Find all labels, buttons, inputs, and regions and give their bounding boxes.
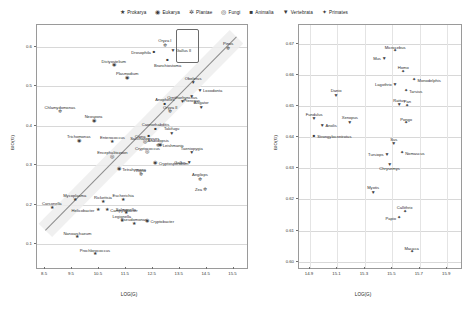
- data-point-takifugu[interactable]: ▼: [169, 130, 174, 135]
- y-tickmark: [296, 230, 298, 231]
- data-point-zea[interactable]: ✲: [203, 186, 207, 191]
- legend-item-fungi[interactable]: ◎Fungi: [221, 9, 240, 15]
- y-tickmark: [34, 164, 36, 165]
- data-point-dictyostelium[interactable]: ◉: [112, 63, 116, 68]
- legend-item-eukarya[interactable]: ◉Eukarya: [155, 9, 180, 15]
- data-point-label: Taeniopygia: [181, 145, 203, 150]
- y-tickmark: [34, 125, 36, 126]
- animalia-marker-icon: ■: [250, 9, 254, 15]
- data-point-lagothrix[interactable]: ▼: [393, 82, 398, 87]
- data-point-carsonella[interactable]: ★: [50, 205, 54, 210]
- data-point-tarsius[interactable]: ✦: [404, 89, 408, 94]
- gridline-vertical: [365, 25, 366, 268]
- data-point-campylobacter[interactable]: ★: [105, 208, 109, 213]
- left-y-axis-title: BIO(G): [10, 123, 15, 163]
- data-point-escherichia[interactable]: ★: [121, 197, 125, 202]
- data-point-label: Chlamydomonas: [45, 104, 76, 109]
- x-tickmark: [446, 267, 447, 269]
- y-tick-label: 0.66: [258, 71, 294, 76]
- legend-label-eukarya: Eukarya: [162, 10, 180, 15]
- legend-item-prokarya[interactable]: ★Prokarya: [120, 9, 146, 15]
- data-point-pan[interactable]: ✦: [405, 104, 409, 109]
- data-point-label: Tursiops: [368, 152, 384, 157]
- data-point-xenopus[interactable]: ▼: [347, 119, 352, 124]
- legend-item-primates[interactable]: ✦Primates: [322, 9, 348, 15]
- legend-item-vertebrata[interactable]: ▼Vertebrata: [283, 9, 313, 15]
- data-point-prochlorococcus[interactable]: ★: [93, 252, 97, 257]
- data-point-gallus-ii[interactable]: ▼: [170, 47, 175, 52]
- data-point-macaca[interactable]: ✦: [410, 250, 414, 255]
- data-point-monodelphis[interactable]: ✦: [412, 77, 416, 82]
- data-point-nanoarchaeum[interactable]: ★: [75, 235, 79, 240]
- chart-legend: ★Prokarya◉Eukarya✲Plantae◎Fungi■Animalia…: [0, 9, 468, 15]
- data-point-pongo[interactable]: ✦: [404, 121, 408, 126]
- data-point-enterococcus[interactable]: ★: [110, 139, 114, 144]
- legend-item-animalia[interactable]: ■Animalia: [250, 9, 274, 15]
- legend-item-plantae[interactable]: ✲Plantae: [189, 9, 212, 15]
- data-point-obelerus[interactable]: ▼: [191, 80, 196, 85]
- data-point-microcebus[interactable]: ✦: [393, 49, 397, 54]
- data-point-alligator[interactable]: ▼: [199, 104, 204, 109]
- data-point-neospora[interactable]: ◉: [92, 118, 96, 123]
- data-point-caenorhabditis[interactable]: ■: [154, 127, 157, 131]
- data-point-loxodonta[interactable]: ▼: [197, 88, 202, 93]
- x-tick-label: 11.5: [121, 271, 129, 276]
- data-point-cryptococcus[interactable]: ◎: [145, 150, 149, 155]
- right-y-axis-title: BIO(G): [273, 123, 278, 163]
- data-point-label: Macaca: [404, 245, 418, 250]
- data-point-encephalitozoon[interactable]: ◎: [110, 154, 114, 159]
- right-panel: ✦Microcebus▼Mus✦Homo✦Monodelphis▼Lagothr…: [258, 22, 468, 316]
- data-point-pseudomonas[interactable]: ★: [132, 221, 136, 226]
- data-point-sus[interactable]: ▼: [391, 141, 396, 146]
- left-x-axis-title: LOG(G): [0, 292, 258, 297]
- x-tick-label: 12.5: [148, 271, 156, 276]
- data-point-mus[interactable]: ▼: [382, 55, 387, 60]
- data-point-fundulus[interactable]: ▼: [312, 116, 317, 121]
- data-point-danio[interactable]: ▼: [334, 93, 339, 98]
- y-tickmark: [296, 105, 298, 106]
- data-point-saccharomyces[interactable]: ◎: [143, 140, 147, 145]
- data-point-homo[interactable]: ✦: [401, 69, 405, 74]
- data-point-tursiops[interactable]: ▼: [384, 152, 389, 157]
- data-point-cryptobacter[interactable]: ◉: [145, 218, 149, 223]
- data-point-label: Cryptobacter: [151, 218, 174, 223]
- data-point-papio[interactable]: ✦: [397, 216, 401, 221]
- data-point-arabidopsis[interactable]: ✲: [156, 142, 160, 147]
- y-tick-label: 0.5: [0, 83, 32, 88]
- data-point-label: Microcebus: [385, 44, 406, 49]
- data-point-taeniopygia[interactable]: ▼: [189, 150, 194, 155]
- data-point-plasmodium[interactable]: ◉: [125, 76, 129, 81]
- data-point-mycoplasma[interactable]: ★: [73, 197, 77, 202]
- data-point-trichomonas[interactable]: ◉: [77, 138, 81, 143]
- data-point-aegilops[interactable]: ✲: [198, 177, 202, 182]
- legend-label-prokarya: Prokarya: [127, 10, 146, 15]
- data-point-vigna[interactable]: ✲: [139, 172, 143, 177]
- data-point-rickettsia[interactable]: ★: [101, 199, 105, 204]
- data-point-anolis[interactable]: ▼: [320, 122, 325, 127]
- legend-label-vertebrata: Vertebrata: [291, 10, 313, 15]
- data-point-rattus[interactable]: ▼: [397, 102, 402, 107]
- data-point-pinus[interactable]: ✲: [226, 45, 230, 50]
- x-tickmark: [152, 267, 153, 269]
- x-tick-label: 15.7: [415, 271, 423, 276]
- data-point-helicobacter[interactable]: ★: [96, 208, 100, 213]
- data-point-label: Helicobacter: [72, 208, 95, 213]
- data-point-tetrahymena[interactable]: ◉: [117, 167, 121, 172]
- data-point-myotis[interactable]: ▼: [371, 189, 376, 194]
- data-point-nomascus[interactable]: ✦: [400, 150, 404, 155]
- data-point-callithrix[interactable]: ✦: [403, 210, 407, 215]
- x-tick-label: 15.3: [360, 271, 368, 276]
- data-point-oryza-i[interactable]: ✲: [163, 42, 167, 47]
- data-point-drosophila[interactable]: ■: [153, 50, 156, 54]
- data-point-gallus[interactable]: ▼: [187, 160, 192, 165]
- data-point-label: Loxodonta: [203, 88, 222, 93]
- gridline-horizontal: [299, 199, 461, 200]
- data-point-label: Escherichia: [113, 193, 134, 198]
- data-point-strongylocentrotus[interactable]: ■: [313, 133, 316, 137]
- data-point-label: Rickettsia: [94, 195, 112, 200]
- data-point-label: Plasmodium: [116, 71, 139, 76]
- legend-label-plantae: Plantae: [196, 10, 212, 15]
- data-point-oryza-ii[interactable]: ✲: [168, 109, 172, 114]
- data-point-cryptosporidium[interactable]: ◉: [153, 161, 157, 166]
- data-point-chlamydomonas[interactable]: ✲: [58, 109, 62, 114]
